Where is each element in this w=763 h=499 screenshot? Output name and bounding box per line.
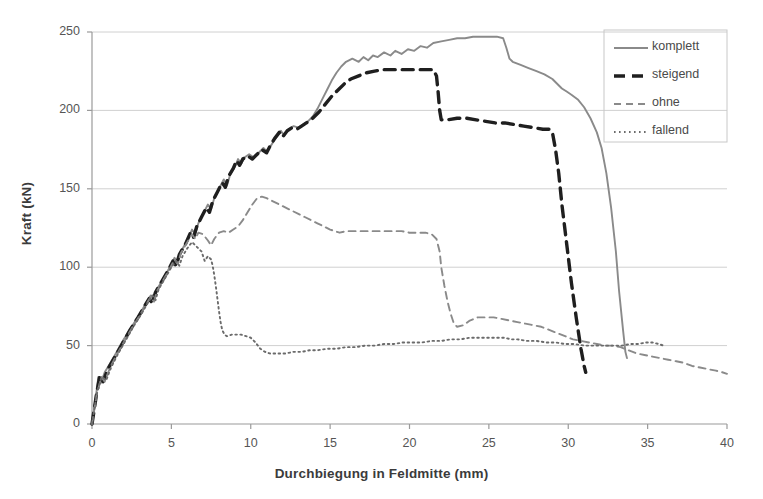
y-axis-tick-label: 250: [40, 24, 80, 38]
x-axis-tick-label: 15: [310, 436, 350, 450]
y-axis-tick-label: 0: [40, 416, 80, 430]
legend-label-steigend: steigend: [652, 67, 699, 81]
x-axis-tick-label: 0: [72, 436, 112, 450]
series-line-komplett: [92, 37, 627, 424]
legend-label-komplett: komplett: [652, 39, 699, 53]
chart-container: Durchbiegung in Feldmitte (mm) Kraft (kN…: [0, 0, 763, 499]
series-line-ohne: [92, 197, 727, 424]
x-axis-title: Durchbiegung in Feldmitte (mm): [0, 466, 763, 481]
x-axis-tick-label: 5: [151, 436, 191, 450]
x-axis-tick-label: 25: [469, 436, 509, 450]
x-axis-tick-label: 10: [231, 436, 271, 450]
legend-label-ohne: ohne: [652, 95, 680, 109]
y-axis-title: Kraft (kN): [19, 144, 34, 284]
y-axis-tick-label: 150: [40, 181, 80, 195]
x-axis-tick-label: 35: [628, 436, 668, 450]
x-axis-tick-label: 30: [548, 436, 588, 450]
y-axis-tick-label: 200: [40, 102, 80, 116]
y-axis-tick-label: 100: [40, 259, 80, 273]
chart-plot-area: [0, 0, 763, 499]
series-line-steigend: [92, 70, 586, 424]
y-axis-tick-label: 50: [40, 338, 80, 352]
x-axis-tick-label: 40: [707, 436, 747, 450]
legend-label-fallend: fallend: [652, 123, 689, 137]
x-axis-tick-label: 20: [390, 436, 430, 450]
